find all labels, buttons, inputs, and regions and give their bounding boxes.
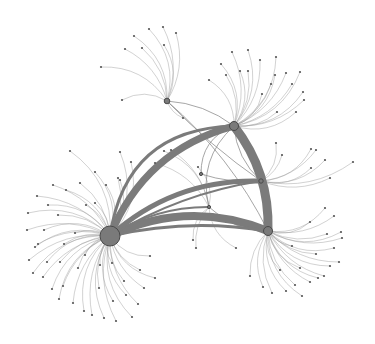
leaf-node[interactable] [270,83,272,85]
leaf-node[interactable] [182,117,184,119]
leaf-node[interactable] [52,184,54,186]
leaf-node[interactable] [139,269,141,271]
leaf-node[interactable] [85,204,87,206]
leaf-node[interactable] [28,259,30,261]
leaf-node[interactable] [94,171,96,173]
hub-node[interactable] [100,226,120,246]
leaf-node[interactable] [105,184,107,186]
leaf-node[interactable] [324,207,326,209]
leaf-node[interactable] [323,275,325,277]
leaf-node[interactable] [291,245,293,247]
leaf-node[interactable] [141,47,143,49]
leaf-node[interactable] [259,59,261,61]
leaf-node[interactable] [63,243,65,245]
leaf-node[interactable] [279,269,281,271]
leaf-node[interactable] [303,99,305,101]
leaf-node[interactable] [275,56,277,58]
leaf-node[interactable] [43,229,45,231]
leaf-node[interactable] [249,275,251,277]
leaf-node[interactable] [315,253,317,255]
leaf-node[interactable] [310,148,312,150]
leaf-node[interactable] [47,204,49,206]
leaf-node[interactable] [163,44,165,46]
hub-node[interactable] [164,98,170,104]
leaf-node[interactable] [117,177,119,179]
leaf-node[interactable] [42,276,44,278]
leaf-node[interactable] [98,287,100,289]
hub-node[interactable] [199,172,202,175]
leaf-node[interactable] [301,295,303,297]
leaf-node[interactable] [333,215,335,217]
leaf-node[interactable] [130,161,132,163]
leaf-node[interactable] [208,79,210,81]
leaf-node[interactable] [285,72,287,74]
leaf-node[interactable] [124,48,126,50]
leaf-node[interactable] [231,51,233,53]
leaf-node[interactable] [123,280,125,282]
leaf-node[interactable] [324,159,326,161]
hub-node[interactable] [264,227,273,236]
leaf-node[interactable] [69,150,71,152]
leaf-node[interactable] [315,149,317,151]
leaf-node[interactable] [340,231,342,233]
leaf-node[interactable] [274,74,276,76]
leaf-node[interactable] [83,310,85,312]
leaf-node[interactable] [154,277,156,279]
leaf-node[interactable] [299,71,301,73]
leaf-node[interactable] [170,149,172,151]
leaf-node[interactable] [197,166,199,168]
leaf-node[interactable] [131,316,133,318]
leaf-node[interactable] [100,66,102,68]
leaf-node[interactable] [119,151,121,153]
leaf-node[interactable] [338,261,340,263]
leaf-node[interactable] [302,91,304,93]
leaf-node[interactable] [309,281,311,283]
leaf-node[interactable] [352,161,354,163]
leaf-node[interactable] [62,285,64,287]
leaf-node[interactable] [317,277,319,279]
leaf-node[interactable] [148,28,150,30]
leaf-node[interactable] [271,292,273,294]
leaf-node[interactable] [94,202,96,204]
leaf-node[interactable] [281,154,283,156]
leaf-node[interactable] [72,302,74,304]
leaf-node[interactable] [26,229,28,231]
leaf-node[interactable] [285,290,287,292]
leaf-node[interactable] [27,212,29,214]
leaf-node[interactable] [162,26,164,28]
leaf-node[interactable] [74,232,76,234]
leaf-node[interactable] [310,167,312,169]
leaf-node[interactable] [247,49,249,51]
leaf-node[interactable] [34,246,36,248]
leaf-node[interactable] [125,294,127,296]
leaf-node[interactable] [333,247,335,249]
leaf-node[interactable] [119,179,121,181]
leaf-node[interactable] [65,189,67,191]
leaf-node[interactable] [149,255,151,257]
leaf-node[interactable] [84,254,86,256]
leaf-node[interactable] [154,162,156,164]
hub-node[interactable] [259,179,263,183]
leaf-node[interactable] [295,111,297,113]
leaf-node[interactable] [59,261,61,263]
leaf-node[interactable] [143,287,145,289]
leaf-node[interactable] [58,298,60,300]
leaf-node[interactable] [247,70,249,72]
leaf-node[interactable] [99,264,101,266]
leaf-node[interactable] [137,303,139,305]
leaf-node[interactable] [220,63,222,65]
leaf-node[interactable] [291,83,293,85]
leaf-node[interactable] [239,70,241,72]
leaf-node[interactable] [77,267,79,269]
leaf-node[interactable] [225,74,227,76]
leaf-node[interactable] [112,300,114,302]
leaf-node[interactable] [195,247,197,249]
leaf-node[interactable] [309,221,311,223]
leaf-node[interactable] [262,286,264,288]
leaf-node[interactable] [235,247,237,249]
hub-node[interactable] [207,205,210,208]
leaf-node[interactable] [261,93,263,95]
leaf-node[interactable] [276,111,278,113]
leaf-node[interactable] [329,265,331,267]
leaf-node[interactable] [37,243,39,245]
